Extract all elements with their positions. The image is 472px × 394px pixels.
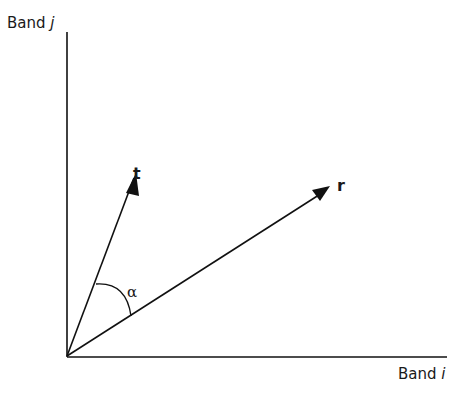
vector-r — [67, 193, 322, 356]
vector-t-label: t — [133, 164, 141, 183]
vector-t — [67, 178, 134, 356]
vector-r-arrowhead — [312, 186, 330, 201]
y-axis-label-var: j — [50, 14, 54, 32]
vector-diagram — [0, 0, 472, 394]
x-axis-label: Band i — [398, 365, 445, 383]
x-axis-label-text: Band — [398, 365, 437, 383]
angle-alpha-label: α — [127, 283, 137, 301]
y-axis-label: Band j — [7, 14, 54, 32]
angle-arc — [96, 284, 131, 316]
x-axis-label-var: i — [441, 365, 445, 383]
vector-r-label: r — [337, 176, 345, 195]
y-axis-label-text: Band — [7, 14, 46, 32]
